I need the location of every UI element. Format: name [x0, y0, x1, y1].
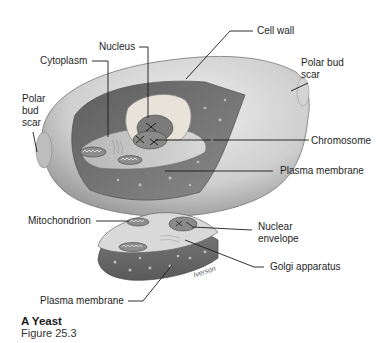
label-polar-bud-scar-left-line2: bud [22, 105, 39, 117]
label-polar-bud-scar-left-line1: Polar [22, 93, 45, 105]
figure-title: A Yeast [21, 315, 62, 327]
label-nucleus: Nucleus [99, 41, 135, 53]
label-nuclear-envelope-line2: envelope [258, 233, 299, 245]
label-chromosome: Chromosome [311, 135, 371, 147]
label-plasma-membrane-top: Plasma membrane [280, 165, 364, 177]
label-golgi-apparatus: Golgi apparatus [270, 261, 341, 273]
label-plasma-membrane-bottom: Plasma membrane [40, 295, 124, 307]
label-polar-bud-scar-left-line3: scar [22, 117, 41, 129]
label-polar-bud-scar-right-line2: scar [301, 69, 320, 81]
label-nuclear-envelope-line1: Nuclear [258, 221, 292, 233]
label-mitochondrion: Mitochondrion [28, 215, 91, 227]
yeast-diagram: Nucleus Cytoplasm Cell wall Polar bud sc… [0, 0, 392, 343]
label-cytoplasm: Cytoplasm [40, 55, 87, 67]
label-polar-bud-scar-right-line1: Polar bud [301, 57, 344, 69]
label-cell-wall: Cell wall [257, 25, 294, 37]
figure-number: Figure 25.3 [21, 327, 77, 339]
